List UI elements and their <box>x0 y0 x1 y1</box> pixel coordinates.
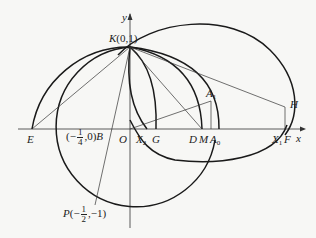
axes <box>18 13 306 228</box>
label-p-coord-suffix: ,−1) <box>88 207 106 219</box>
label-x2-sub: 2 <box>143 139 147 147</box>
label-p-name: P <box>63 207 70 219</box>
label-x2-name: X <box>136 133 143 145</box>
label-e: E <box>27 134 34 145</box>
label-b-coord-prefix: (− <box>66 130 76 142</box>
y-axis-label: y <box>122 12 127 23</box>
label-a1-name: A <box>206 87 213 99</box>
label-x1-sub: 1 <box>279 139 283 147</box>
segments <box>32 47 285 205</box>
label-h: H <box>290 99 298 110</box>
label-g: G <box>152 134 160 145</box>
label-x2: X2 <box>136 134 146 147</box>
arc-k-g <box>130 47 156 129</box>
label-p-den: 2 <box>81 215 88 224</box>
label-k-coord: (0,1) <box>116 32 137 44</box>
circles <box>32 24 295 207</box>
arc-k-x2 <box>129 47 147 129</box>
label-b-name: B <box>96 130 103 142</box>
label-b: (−14,0)B <box>66 128 103 147</box>
geometry-diagram <box>0 0 316 238</box>
label-p-fraction: 12 <box>81 205 88 224</box>
y-axis-arrow-icon <box>128 13 133 20</box>
label-p: P(−12,−1) <box>63 205 106 224</box>
label-f: F <box>284 134 291 145</box>
segment-o-a1 <box>130 101 211 129</box>
label-a1: A1 <box>206 88 216 101</box>
label-o: O <box>119 134 127 145</box>
segment-p-k <box>95 47 130 205</box>
label-b-fraction: 14 <box>77 128 84 147</box>
label-a0-sub: 0 <box>217 139 221 147</box>
label-a0: A0 <box>210 134 220 147</box>
label-b-coord-suffix: ,0) <box>84 130 96 142</box>
label-a1-sub: 1 <box>213 93 217 101</box>
label-p-coord-prefix: (− <box>70 207 80 219</box>
label-d: D <box>189 134 197 145</box>
label-x1: X1 <box>272 134 282 147</box>
label-a0-name: A <box>210 133 217 145</box>
x-axis-label: x <box>296 133 301 144</box>
label-x1-name: X <box>272 133 279 145</box>
x-axis-arrow-icon <box>300 127 306 132</box>
label-m: M <box>199 134 208 145</box>
label-k: K(0,1) <box>109 33 137 44</box>
label-b-den: 4 <box>77 138 84 147</box>
arc-circle-h <box>118 24 295 135</box>
